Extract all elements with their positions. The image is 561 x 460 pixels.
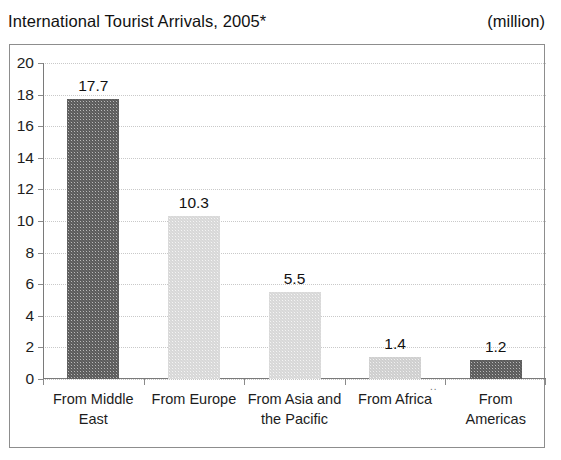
plot-area: 20181614121086420 17.710.35.51.41.2 xyxy=(43,63,546,379)
bar-value-label: 10.3 xyxy=(179,194,209,212)
bar[interactable]: 17.7 xyxy=(67,99,119,379)
y-axis-tick-label: 20 xyxy=(17,54,34,72)
bar-value-label: 1.4 xyxy=(384,335,406,353)
plot-inner: 20181614121086420 17.710.35.51.41.2 From… xyxy=(10,45,544,447)
category-label-line: East xyxy=(43,409,144,429)
category-label-line: From xyxy=(445,389,546,409)
chart-units-label: (million) xyxy=(487,12,545,31)
category-label-line: From Middle xyxy=(43,389,144,409)
y-axis-tick-label: 6 xyxy=(25,275,34,293)
y-axis-tick-label: 12 xyxy=(17,180,34,198)
y-axis-tick-label: 8 xyxy=(25,243,34,261)
y-axis-tick-label: 0 xyxy=(25,370,34,388)
bar-value-label: 17.7 xyxy=(78,77,108,95)
y-axis-tick-label: 4 xyxy=(25,306,34,324)
bar-value-label: 1.2 xyxy=(485,338,507,356)
category-label-line: From Asia and xyxy=(244,389,345,409)
category-label: From MiddleEast xyxy=(43,389,144,429)
y-axis-line xyxy=(43,63,44,379)
scan-artifact-speck: .. xyxy=(430,381,438,392)
bar-value-label: 5.5 xyxy=(284,270,306,288)
y-axis-tick-label: 14 xyxy=(17,148,34,166)
gridline xyxy=(43,379,546,381)
category-axis-labels: From MiddleEastFrom EuropeFrom Asia andt… xyxy=(43,385,546,445)
y-axis-tick-label: 18 xyxy=(17,85,34,103)
category-label-line: Americas xyxy=(445,409,546,429)
category-label: From Asia andthe Pacific xyxy=(244,389,345,429)
category-label-line: From Europe xyxy=(144,389,245,409)
category-label: From Europe xyxy=(144,389,245,409)
chart-title: International Tourist Arrivals, 2005* xyxy=(8,12,266,31)
category-label: FromAmericas xyxy=(445,389,546,429)
gridline xyxy=(43,63,546,65)
category-label-line: From Africa xyxy=(345,389,446,409)
y-axis-tick-label: 10 xyxy=(17,212,34,230)
y-axis-tick-label: 2 xyxy=(25,338,34,356)
chart-plot-frame: 20181614121086420 17.710.35.51.41.2 From… xyxy=(9,44,545,448)
bar[interactable]: 1.2 xyxy=(470,360,522,379)
bar[interactable]: 10.3 xyxy=(168,216,220,379)
gridline xyxy=(43,95,546,97)
y-axis-tick-label: 16 xyxy=(17,117,34,135)
bar[interactable]: 1.4 xyxy=(369,357,421,379)
category-label: From Africa xyxy=(345,389,446,409)
category-label-line: the Pacific xyxy=(244,409,345,429)
chart-header: International Tourist Arrivals, 2005* (m… xyxy=(0,0,561,42)
bar[interactable]: 5.5 xyxy=(269,292,321,379)
